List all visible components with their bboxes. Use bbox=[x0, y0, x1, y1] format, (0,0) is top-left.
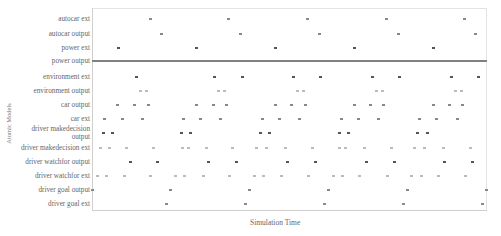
event-marker bbox=[416, 132, 419, 134]
event-marker bbox=[304, 104, 307, 106]
event-marker bbox=[195, 47, 198, 49]
event-marker bbox=[418, 118, 421, 120]
event-marker bbox=[426, 132, 429, 134]
event-marker bbox=[125, 147, 128, 149]
event-marker bbox=[219, 118, 222, 120]
y-axis-line bbox=[92, 8, 93, 211]
event-marker bbox=[402, 203, 405, 205]
event-marker bbox=[311, 147, 314, 149]
event-marker bbox=[363, 147, 366, 149]
row-label: power ext bbox=[61, 44, 90, 52]
event-marker bbox=[165, 203, 168, 205]
event-marker bbox=[121, 118, 124, 120]
row-label: driver makedecision ext bbox=[21, 144, 90, 152]
x-axis-title: Simulation Time bbox=[250, 218, 300, 227]
event-marker bbox=[139, 90, 142, 92]
event-marker bbox=[327, 189, 330, 191]
event-marker bbox=[286, 161, 289, 163]
event-marker bbox=[212, 104, 215, 106]
row-label: autocar output bbox=[49, 30, 90, 38]
event-marker bbox=[413, 147, 416, 149]
event-marker bbox=[274, 47, 277, 49]
event-marker bbox=[477, 76, 480, 78]
event-marker bbox=[432, 104, 435, 106]
event-marker bbox=[461, 104, 464, 106]
event-marker bbox=[181, 147, 184, 149]
event-marker bbox=[91, 189, 94, 191]
event-marker bbox=[398, 76, 401, 78]
row-label: driver watchfor output bbox=[25, 158, 90, 166]
event-marker bbox=[207, 161, 210, 163]
event-marker bbox=[195, 104, 198, 106]
event-marker bbox=[485, 189, 488, 191]
event-marker bbox=[338, 147, 341, 149]
event-marker bbox=[96, 175, 99, 177]
event-marker bbox=[103, 118, 106, 120]
event-marker bbox=[259, 132, 262, 134]
event-marker bbox=[481, 203, 484, 205]
event-marker bbox=[365, 161, 368, 163]
event-marker bbox=[393, 161, 396, 163]
event-marker bbox=[448, 104, 451, 106]
row-label: environment ext bbox=[43, 73, 90, 81]
event-marker bbox=[474, 33, 477, 35]
row-label: car ext bbox=[71, 115, 90, 123]
event-marker bbox=[423, 147, 426, 149]
event-marker bbox=[147, 104, 150, 106]
event-marker bbox=[307, 175, 310, 177]
event-marker bbox=[450, 76, 453, 78]
event-marker bbox=[385, 18, 388, 20]
event-marker bbox=[235, 161, 238, 163]
event-marker bbox=[117, 47, 120, 49]
event-marker bbox=[375, 90, 378, 92]
event-marker bbox=[432, 47, 435, 49]
event-marker bbox=[241, 76, 244, 78]
event-marker bbox=[298, 118, 301, 120]
event-marker bbox=[442, 147, 445, 149]
event-marker bbox=[353, 104, 356, 106]
event-marker bbox=[306, 18, 309, 20]
event-marker bbox=[202, 175, 205, 177]
event-marker bbox=[129, 161, 132, 163]
event-marker bbox=[353, 47, 356, 49]
event-marker bbox=[274, 104, 277, 106]
event-marker bbox=[437, 175, 440, 177]
event-marker bbox=[180, 132, 183, 134]
event-marker bbox=[248, 189, 251, 191]
event-marker bbox=[223, 90, 226, 92]
row-label: car output bbox=[61, 101, 90, 109]
event-marker bbox=[338, 132, 341, 134]
event-marker bbox=[244, 203, 247, 205]
y-axis-title: Atomic Models bbox=[5, 103, 12, 144]
event-marker bbox=[332, 175, 335, 177]
row-label: driver goal output bbox=[39, 186, 91, 194]
event-marker bbox=[280, 175, 283, 177]
event-marker bbox=[292, 76, 295, 78]
event-marker bbox=[443, 161, 446, 163]
event-marker bbox=[228, 175, 231, 177]
row-label: power output bbox=[52, 57, 90, 65]
event-marker bbox=[381, 90, 384, 92]
event-marker bbox=[231, 147, 234, 149]
plot-area bbox=[92, 8, 487, 211]
event-marker bbox=[189, 132, 192, 134]
event-marker bbox=[454, 90, 457, 92]
event-marker bbox=[108, 147, 111, 149]
event-marker bbox=[302, 90, 305, 92]
event-marker bbox=[123, 175, 126, 177]
event-marker bbox=[296, 90, 299, 92]
event-marker bbox=[99, 147, 102, 149]
event-marker bbox=[105, 175, 108, 177]
event-marker bbox=[225, 104, 228, 106]
event-marker bbox=[369, 104, 372, 106]
event-marker bbox=[149, 175, 152, 177]
event-marker bbox=[169, 189, 172, 191]
event-marker bbox=[347, 132, 350, 134]
event-marker bbox=[284, 147, 287, 149]
event-marker bbox=[145, 90, 148, 92]
event-marker bbox=[319, 76, 322, 78]
event-marker bbox=[406, 189, 409, 191]
event-timeline-chart: autocar extautocar outputpower extpower … bbox=[0, 0, 501, 236]
event-marker bbox=[456, 118, 459, 120]
event-marker bbox=[261, 118, 264, 120]
